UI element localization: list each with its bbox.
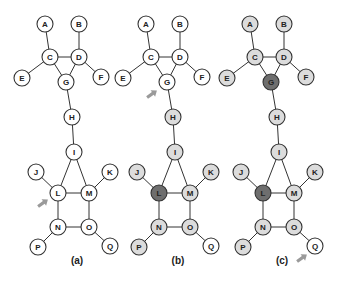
- svg-text:D: D: [281, 53, 287, 62]
- panel-c-caption: (c): [276, 255, 288, 266]
- pointer-arrow-icon: [295, 251, 309, 264]
- svg-text:G: G: [164, 78, 170, 87]
- svg-text:B: B: [76, 20, 82, 29]
- svg-text:C: C: [148, 53, 154, 62]
- node-F: F: [298, 69, 314, 85]
- svg-text:I: I: [278, 148, 280, 157]
- node-J: J: [129, 164, 145, 180]
- node-D: D: [172, 49, 188, 65]
- node-O: O: [286, 219, 302, 235]
- node-P: P: [235, 239, 251, 255]
- svg-text:A: A: [143, 20, 149, 29]
- node-Q: Q: [102, 238, 118, 254]
- svg-text:H: H: [274, 113, 280, 122]
- node-K: K: [102, 164, 118, 180]
- node-F: F: [93, 69, 109, 85]
- node-I: I: [66, 144, 82, 160]
- node-K: K: [203, 164, 219, 180]
- panel-c: ABCDEFGHIJKLMNOPQ: [219, 16, 323, 265]
- node-M: M: [286, 185, 302, 201]
- svg-text:A: A: [42, 20, 48, 29]
- svg-text:E: E: [224, 74, 230, 83]
- svg-text:H: H: [69, 113, 75, 122]
- pointer-arrow-icon: [36, 196, 50, 209]
- node-C: C: [42, 49, 58, 65]
- node-Q: Q: [203, 238, 219, 254]
- svg-text:Q: Q: [208, 242, 214, 251]
- svg-text:E: E: [19, 74, 25, 83]
- node-B: B: [276, 16, 292, 32]
- node-M: M: [182, 185, 198, 201]
- svg-text:M: M: [86, 189, 93, 198]
- svg-text:M: M: [187, 189, 194, 198]
- svg-text:P: P: [136, 243, 142, 252]
- node-G: G: [58, 74, 74, 90]
- svg-text:I: I: [73, 148, 75, 157]
- svg-text:J: J: [239, 168, 243, 177]
- svg-text:L: L: [261, 189, 266, 198]
- node-B: B: [71, 16, 87, 32]
- svg-text:B: B: [281, 20, 287, 29]
- node-O: O: [81, 219, 97, 235]
- node-N: N: [50, 219, 66, 235]
- node-J: J: [28, 164, 44, 180]
- node-L: L: [50, 185, 66, 201]
- node-F: F: [194, 69, 210, 85]
- svg-text:O: O: [187, 223, 193, 232]
- node-H: H: [269, 109, 285, 125]
- svg-text:Q: Q: [107, 242, 113, 251]
- svg-text:J: J: [135, 168, 139, 177]
- node-I: I: [167, 144, 183, 160]
- pointer-arrow-icon: [145, 87, 159, 100]
- svg-text:D: D: [177, 53, 183, 62]
- svg-text:P: P: [240, 243, 246, 252]
- node-G: G: [263, 74, 279, 90]
- node-J: J: [233, 164, 249, 180]
- svg-text:N: N: [260, 223, 266, 232]
- node-O: O: [182, 219, 198, 235]
- node-K: K: [307, 164, 323, 180]
- panel-a: ABCDEFGHIJKLMNOPQ: [14, 16, 118, 255]
- svg-text:B: B: [177, 20, 183, 29]
- node-E: E: [219, 70, 235, 86]
- node-P: P: [131, 239, 147, 255]
- node-B: B: [172, 16, 188, 32]
- svg-text:K: K: [107, 168, 113, 177]
- svg-text:C: C: [47, 53, 53, 62]
- svg-text:H: H: [170, 113, 176, 122]
- node-D: D: [276, 49, 292, 65]
- node-H: H: [165, 109, 181, 125]
- svg-text:M: M: [291, 189, 298, 198]
- svg-text:K: K: [312, 168, 318, 177]
- graph-canvas: ABCDEFGHIJKLMNOPQABCDEFGHIJKLMNOPQABCDEF…: [0, 0, 345, 281]
- node-M: M: [81, 185, 97, 201]
- node-D: D: [71, 49, 87, 65]
- svg-text:D: D: [76, 53, 82, 62]
- node-A: A: [138, 16, 154, 32]
- svg-text:G: G: [63, 78, 69, 87]
- panel-b-caption: (b): [172, 255, 185, 266]
- node-E: E: [115, 70, 131, 86]
- node-N: N: [151, 219, 167, 235]
- svg-text:A: A: [247, 20, 253, 29]
- svg-text:Q: Q: [312, 242, 318, 251]
- svg-text:J: J: [34, 168, 38, 177]
- svg-text:F: F: [99, 73, 104, 82]
- graph-figure: ABCDEFGHIJKLMNOPQABCDEFGHIJKLMNOPQABCDEF…: [0, 0, 345, 281]
- svg-text:P: P: [35, 243, 41, 252]
- node-G: G: [159, 74, 175, 90]
- svg-text:O: O: [291, 223, 297, 232]
- svg-text:N: N: [156, 223, 162, 232]
- node-L: L: [255, 185, 271, 201]
- node-L: L: [151, 185, 167, 201]
- svg-text:N: N: [55, 223, 61, 232]
- node-A: A: [242, 16, 258, 32]
- node-N: N: [255, 219, 271, 235]
- node-H: H: [64, 109, 80, 125]
- svg-text:F: F: [304, 73, 309, 82]
- svg-text:L: L: [56, 189, 61, 198]
- svg-text:G: G: [268, 78, 274, 87]
- svg-text:E: E: [120, 74, 126, 83]
- node-C: C: [143, 49, 159, 65]
- node-Q: Q: [307, 238, 323, 254]
